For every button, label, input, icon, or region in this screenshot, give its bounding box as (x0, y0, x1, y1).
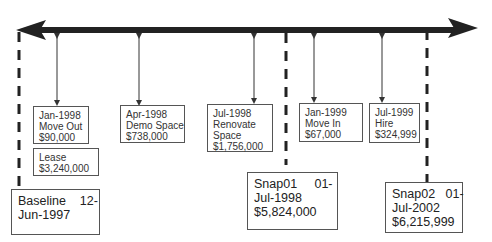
snapshot-title: Snap02 01- (392, 187, 456, 201)
event-date: Jan-1998 (39, 110, 83, 121)
event-box-jan-1999: Jan-1999 Move In $67,000 (299, 103, 363, 142)
event-label: Demo Space (126, 120, 179, 131)
event-label: Lease (39, 152, 93, 163)
event-amount: $90,000 (39, 132, 83, 143)
event-amount: $67,000 (305, 129, 357, 140)
event-box-lease: Lease $3,240,000 (33, 148, 99, 176)
event-label-line2: Space (213, 130, 267, 141)
snapshot-date: Jun-1997 (18, 208, 93, 222)
snapshot-date: Jul-1998 (254, 191, 331, 205)
event-box-jul-1998: Jul-1998 Renovate Space $1,756,000 (207, 104, 273, 152)
event-box-jul-1999: Jul-1999 Hire $324,999 (369, 103, 420, 143)
snapshot-date: Jul-2002 (392, 201, 456, 215)
event-date: Jan-1999 (305, 107, 357, 118)
event-box-jan-1998: Jan-1998 Move Out $90,000 (33, 106, 89, 144)
snapshot-baseline: Baseline 12- Jun-1997 (11, 189, 100, 235)
event-amount: $3,240,000 (39, 163, 93, 174)
snapshot-title: Baseline 12- (18, 194, 93, 208)
event-amount: $1,756,000 (213, 141, 267, 152)
event-date: Jul-1998 (213, 108, 267, 119)
event-date: Apr-1998 (126, 109, 179, 120)
event-label: Move In (305, 118, 357, 129)
event-date: Jul-1999 (375, 107, 414, 118)
snapshot-amount: $6,215,999 (392, 215, 456, 229)
event-label: Renovate (213, 119, 267, 130)
snapshot-snap02: Snap02 01- Jul-2002 $6,215,999 (385, 182, 463, 233)
snapshot-amount: $5,824,000 (254, 205, 331, 219)
snapshot-snap01: Snap01 01- Jul-1998 $5,824,000 (247, 172, 338, 230)
event-label: Hire (375, 118, 414, 129)
event-amount: $738,000 (126, 131, 179, 142)
timeline-axis (16, 18, 478, 40)
event-connectors (57, 36, 382, 103)
event-box-apr-1998: Apr-1998 Demo Space $738,000 (120, 105, 185, 143)
event-amount: $324,999 (375, 129, 414, 140)
snapshot-title: Snap01 01- (254, 177, 331, 191)
event-label: Move Out (39, 121, 83, 132)
